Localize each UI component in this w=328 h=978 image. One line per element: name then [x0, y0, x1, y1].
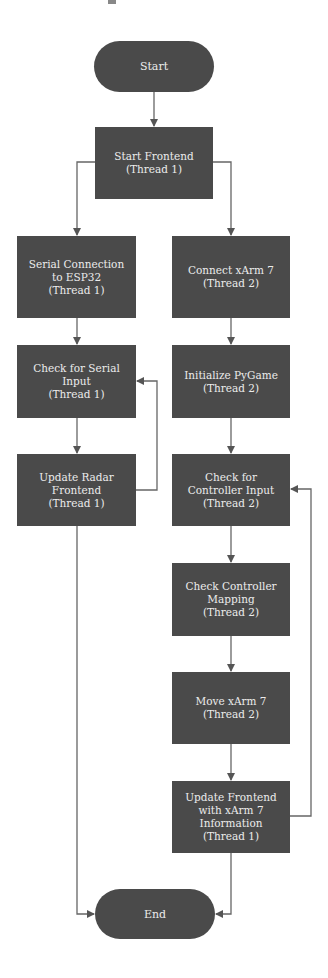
- node-thread: (Thread 2): [203, 708, 259, 721]
- node-label: Start: [140, 60, 168, 73]
- node-label: Update Radar: [39, 471, 114, 484]
- node-label: Check for: [205, 471, 257, 484]
- edge-radar-loop: [136, 381, 157, 490]
- edge-frontend-serial: [77, 162, 95, 235]
- node-label: Check Controller: [185, 580, 276, 593]
- node-start-frontend: Start Frontend (Thread 1): [95, 127, 213, 199]
- node-label: Connect xArm 7: [188, 264, 274, 277]
- node-label: Update Frontend: [185, 791, 277, 804]
- node-label: Input: [62, 375, 91, 388]
- node-thread: (Thread 2): [203, 497, 259, 510]
- node-label: Information: [199, 817, 262, 830]
- node-thread: (Thread 1): [48, 284, 104, 297]
- edge-radar-end: [77, 526, 94, 914]
- node-label: Controller Input: [188, 484, 275, 497]
- node-thread: (Thread 1): [48, 497, 104, 510]
- node-thread: (Thread 2): [203, 382, 259, 395]
- node-label: to ESP32: [52, 271, 101, 284]
- node-thread: (Thread 1): [48, 388, 104, 401]
- node-label: Mapping: [207, 593, 254, 606]
- node-end: End: [95, 889, 215, 939]
- node-thread: (Thread 2): [203, 606, 259, 619]
- node-label: Check for Serial: [33, 362, 120, 375]
- node-label: End: [144, 908, 166, 921]
- node-label: with xArm 7: [198, 804, 263, 817]
- node-update-frontend-xarm-info: Update Frontend with xArm 7 Information …: [172, 781, 290, 853]
- node-thread: (Thread 1): [126, 163, 182, 176]
- node-start: Start: [94, 41, 214, 92]
- edge-frontend-xarm: [213, 162, 231, 235]
- node-label: Initialize PyGame: [184, 369, 278, 382]
- node-update-radar-frontend: Update Radar Frontend (Thread 1): [17, 454, 136, 526]
- node-thread: (Thread 2): [203, 277, 259, 290]
- node-label: Frontend: [52, 484, 101, 497]
- node-serial-connection: Serial Connection to ESP32 (Thread 1): [17, 236, 136, 318]
- node-check-controller-input: Check for Controller Input (Thread 2): [172, 454, 290, 526]
- flowchart-canvas: Start Start Frontend (Thread 1) Serial C…: [0, 0, 328, 978]
- node-check-serial-input: Check for Serial Input (Thread 1): [17, 345, 136, 418]
- edge-updfront-loop: [290, 489, 311, 816]
- node-move-xarm: Move xArm 7 (Thread 2): [172, 672, 290, 744]
- edge-updfront-end: [216, 853, 231, 914]
- node-label: Move xArm 7: [195, 695, 266, 708]
- node-thread: (Thread 1): [203, 830, 259, 843]
- node-initialize-pygame: Initialize PyGame (Thread 2): [172, 345, 290, 418]
- node-label: Start Frontend: [114, 150, 194, 163]
- node-check-controller-mapping: Check Controller Mapping (Thread 2): [172, 563, 290, 636]
- node-label: Serial Connection: [29, 258, 124, 271]
- node-connect-xarm: Connect xArm 7 (Thread 2): [172, 236, 290, 318]
